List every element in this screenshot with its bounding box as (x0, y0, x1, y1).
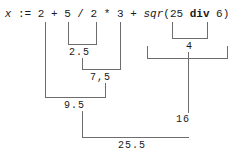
token-operand-3: 3 (117, 8, 124, 20)
token-function-sqr: sqr (143, 8, 163, 20)
connector-operand-25-down (172, 22, 173, 38)
token-plus-2: + (130, 8, 137, 20)
token-operand-5: 5 (64, 8, 71, 20)
value-label-7-5: 7,5 (90, 73, 111, 83)
connector-operand-5-down (68, 22, 69, 44)
token-plus-1: + (51, 8, 58, 20)
connector-bracket-4 (172, 38, 208, 39)
connector-2-5-down (82, 58, 83, 69)
token-div-keyword: div (190, 8, 210, 20)
connector-bracket-25-5 (82, 137, 189, 138)
token-divide: / (77, 8, 84, 20)
connector-operand-2-down (45, 22, 46, 97)
token-operand-6: 6 (216, 8, 223, 20)
value-label-25-5: 25.5 (118, 141, 146, 151)
token-paren-close: ) (223, 8, 230, 20)
token-paren-open: ( (163, 8, 170, 20)
token-operand-2: 2 (38, 8, 45, 20)
connector-sqr-right-leg (227, 46, 228, 58)
value-label-9-5: 9.5 (64, 101, 85, 111)
connector-9-5-down (82, 111, 83, 137)
value-label-16: 16 (176, 115, 190, 125)
connector-operand-3-down (120, 22, 121, 69)
connector-bracket-7-5 (82, 69, 121, 70)
value-label-4: 4 (186, 42, 193, 52)
connector-bracket-2-5 (68, 44, 97, 45)
token-operand-2b: 2 (91, 8, 98, 20)
value-label-2-5: 2.5 (69, 48, 90, 58)
connector-bracket-9-5 (45, 97, 106, 98)
connector-sqr-left-leg (147, 46, 148, 58)
token-times: * (104, 8, 111, 20)
expression-evaluation-diagram: x := 2 + 5 / 2 * 3 + sqr(25 div 6) 2.5 4… (0, 0, 234, 155)
connector-operand-6-down (207, 22, 208, 38)
token-assign: := (18, 8, 31, 20)
connector-sqr-stem-down (188, 58, 189, 113)
token-operand-25: 25 (170, 8, 183, 20)
connector-7-5-down (105, 83, 106, 97)
token-variable: x (5, 8, 12, 20)
connector-operand-2b-down (96, 22, 97, 44)
expression-line: x := 2 + 5 / 2 * 3 + sqr(25 div 6) (0, 8, 234, 20)
